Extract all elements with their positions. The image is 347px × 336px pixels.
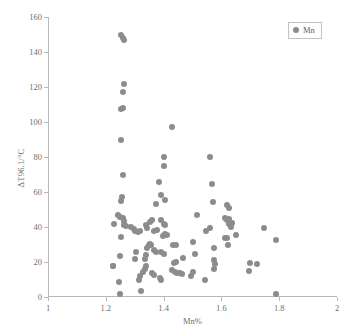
data-point bbox=[273, 237, 279, 243]
y-axis-tick-mark bbox=[44, 227, 48, 228]
data-point bbox=[202, 277, 208, 283]
data-point bbox=[192, 251, 198, 257]
scatter-chart-figure: 020406080100120140160 11.21.41.61.82 ΔT9… bbox=[0, 0, 347, 336]
y-axis-tick-label: 100 bbox=[29, 118, 42, 127]
data-point bbox=[211, 245, 217, 251]
data-point bbox=[254, 261, 260, 267]
data-point bbox=[117, 253, 123, 259]
data-point bbox=[118, 137, 124, 143]
data-point bbox=[233, 232, 239, 238]
x-axis-tick-mark bbox=[279, 297, 280, 301]
data-point bbox=[226, 205, 232, 211]
data-point bbox=[190, 269, 196, 275]
y-axis-tick-mark bbox=[44, 157, 48, 158]
data-point bbox=[225, 242, 231, 248]
x-axis-tick-mark bbox=[337, 297, 338, 301]
data-point bbox=[110, 263, 116, 269]
data-point bbox=[224, 235, 230, 241]
data-point bbox=[111, 221, 117, 227]
y-axis-tick-mark bbox=[44, 192, 48, 193]
x-axis-tick-mark bbox=[106, 297, 107, 301]
x-axis-tick-label: 2 bbox=[335, 304, 339, 313]
x-axis-tick-label: 1.8 bbox=[274, 304, 285, 313]
data-point bbox=[153, 201, 159, 207]
data-point bbox=[179, 271, 185, 277]
y-axis-tick-label: 140 bbox=[29, 48, 42, 57]
data-point bbox=[121, 37, 127, 43]
filled-circle-marker-icon bbox=[293, 27, 299, 33]
x-axis-tick-label: 1.6 bbox=[216, 304, 227, 313]
data-point bbox=[162, 222, 168, 228]
data-point bbox=[247, 260, 253, 266]
data-point bbox=[209, 181, 215, 187]
y-axis-tick-mark bbox=[44, 17, 48, 18]
data-point bbox=[143, 263, 149, 269]
data-point bbox=[120, 105, 126, 111]
data-point bbox=[173, 259, 179, 265]
y-axis-tick-label: 20 bbox=[34, 258, 43, 267]
x-axis-tick-label: 1.4 bbox=[158, 304, 169, 313]
data-point bbox=[118, 198, 124, 204]
y-axis-title: ΔT96.1/°C bbox=[16, 149, 26, 188]
data-point bbox=[132, 256, 138, 262]
y-axis-line bbox=[48, 17, 49, 297]
y-axis-tick-label: 0 bbox=[38, 293, 42, 302]
data-point bbox=[117, 291, 123, 297]
data-point bbox=[138, 288, 144, 294]
data-point bbox=[156, 179, 162, 185]
data-point bbox=[120, 172, 126, 178]
data-point bbox=[133, 249, 139, 255]
data-point bbox=[116, 279, 122, 285]
data-point bbox=[137, 228, 143, 234]
x-axis-tick-mark bbox=[221, 297, 222, 301]
plot-area: 020406080100120140160 11.21.41.61.82 bbox=[48, 17, 337, 297]
x-axis-tick-mark bbox=[164, 297, 165, 301]
data-point bbox=[143, 252, 149, 258]
data-point bbox=[161, 163, 167, 169]
x-axis-tick-mark bbox=[48, 297, 49, 301]
y-axis-tick-label: 120 bbox=[29, 83, 42, 92]
data-point bbox=[180, 255, 186, 261]
data-point bbox=[211, 266, 217, 272]
data-point bbox=[154, 227, 160, 233]
data-point bbox=[190, 239, 196, 245]
data-point bbox=[158, 277, 164, 283]
y-axis-tick-label: 40 bbox=[34, 223, 43, 232]
data-point bbox=[207, 154, 213, 160]
x-axis-tick-label: 1 bbox=[46, 304, 50, 313]
data-point bbox=[194, 212, 200, 218]
y-axis-tick-label: 160 bbox=[29, 13, 42, 22]
data-point bbox=[173, 242, 179, 248]
y-axis-tick-mark bbox=[44, 122, 48, 123]
x-axis-title: Mn% bbox=[48, 316, 337, 326]
data-point bbox=[149, 217, 155, 223]
y-axis-tick-mark bbox=[44, 262, 48, 263]
y-axis-tick-mark bbox=[44, 87, 48, 88]
data-point bbox=[120, 89, 126, 95]
data-point bbox=[118, 234, 124, 240]
data-point bbox=[164, 232, 170, 238]
x-axis-tick-label: 1.2 bbox=[100, 304, 111, 313]
x-axis-line bbox=[48, 296, 337, 297]
y-axis-tick-label: 80 bbox=[34, 153, 43, 162]
legend: Mn bbox=[288, 22, 322, 39]
data-point bbox=[144, 225, 150, 231]
data-point bbox=[273, 291, 279, 297]
data-point bbox=[203, 228, 209, 234]
data-point bbox=[261, 225, 267, 231]
data-point bbox=[121, 81, 127, 87]
data-point bbox=[161, 154, 167, 160]
data-point bbox=[161, 251, 167, 257]
data-point bbox=[228, 224, 234, 230]
data-point bbox=[246, 268, 252, 274]
data-point bbox=[162, 197, 168, 203]
y-axis-tick-mark bbox=[44, 52, 48, 53]
data-point bbox=[210, 199, 216, 205]
data-point bbox=[169, 124, 175, 130]
legend-item-label: Mn bbox=[303, 26, 315, 35]
data-point bbox=[151, 272, 157, 278]
y-axis-tick-label: 60 bbox=[34, 188, 43, 197]
